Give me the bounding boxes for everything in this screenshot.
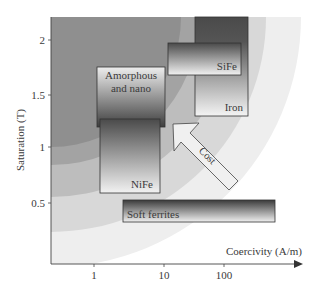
region-amorphous-label-2: and nano [111, 82, 152, 94]
chart-figure: Iron SiFe Amorphous and nano NiFe Soft f… [0, 0, 318, 293]
region-amorphous: Amorphous and nano [97, 67, 165, 127]
y-tick-label: 0.5 [31, 197, 45, 209]
y-tick-label: 1.5 [31, 89, 45, 101]
region-iron-label: Iron [225, 101, 244, 113]
y-tick-label: 1 [40, 141, 46, 153]
y-tick-label: 2 [40, 34, 46, 46]
x-tick-label: 1 [91, 269, 97, 281]
x-tick-label: 100 [216, 269, 233, 281]
region-nife-label: NiFe [131, 178, 153, 190]
region-soft-ferrites-label: Soft ferrites [127, 208, 179, 220]
region-sife-label: SiFe [217, 60, 237, 72]
region-soft-ferrites: Soft ferrites [123, 200, 275, 222]
region-amorphous-label-1: Amorphous [105, 69, 157, 81]
y-axis-title: Saturation (T) [14, 109, 27, 171]
region-sife: SiFe [168, 43, 241, 75]
x-tick-label: 10 [159, 269, 171, 281]
region-nife: NiFe [100, 119, 160, 193]
x-axis-title: Coercivity (A/m) [226, 245, 302, 258]
